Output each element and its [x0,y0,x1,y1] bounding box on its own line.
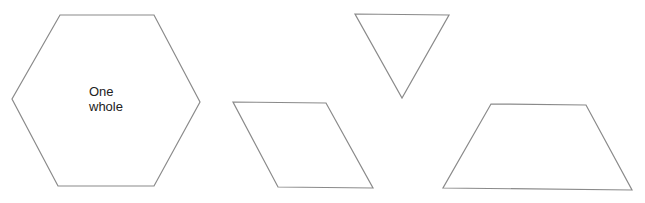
diagram-canvas: One whole [0,0,645,203]
trapezoid-shape [443,104,632,190]
rhombus-shape [233,102,373,188]
triangle-shape [355,14,449,98]
hexagon-label-line-2: whole [89,99,123,114]
hexagon-label-line-1: One [89,84,123,99]
hexagon-label: One whole [89,84,123,114]
